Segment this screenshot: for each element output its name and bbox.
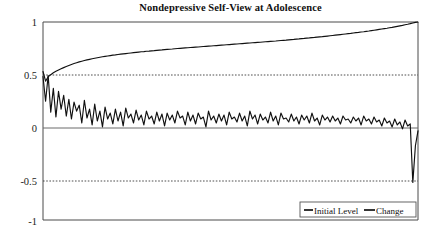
y-tick-label-minus-0.5: -0.5	[20, 176, 37, 187]
y-tick-label-0.5: 0.5	[24, 70, 37, 81]
chart-plot-area: 1 0.5 0 -0.5 -1 Initial Level Change	[0, 0, 436, 242]
chart-figure: Nondepressive Self-View at Adolescence 1…	[0, 0, 436, 242]
y-tick-label-1: 1	[32, 17, 37, 28]
legend-label-change: Change	[376, 206, 404, 216]
y-tick-label-0: 0	[32, 123, 37, 134]
y-tick-label-minus-1: -1	[28, 216, 37, 227]
series-line-change	[43, 75, 418, 182]
series-line-initial-level	[43, 22, 418, 81]
chart-legend[interactable]: Initial Level Change	[300, 202, 416, 217]
legend-label-initial-level: Initial Level	[314, 206, 359, 216]
